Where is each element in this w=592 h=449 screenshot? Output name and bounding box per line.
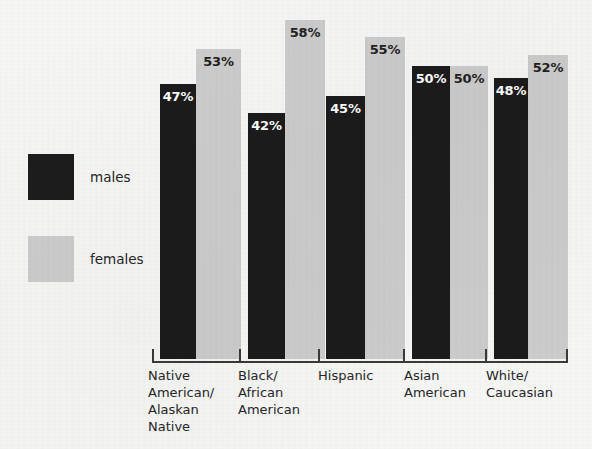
bar-value-label: 50% xyxy=(412,72,450,85)
bar-value-label: 42% xyxy=(248,119,285,132)
x-axis-tick-5 xyxy=(485,349,487,362)
x-axis-tick-6 xyxy=(566,349,568,362)
category-label-2: Black/ African American xyxy=(238,367,300,418)
bar-females-2: 58% xyxy=(285,20,325,359)
bar-males-5: 48% xyxy=(494,78,528,359)
bar-value-label: 53% xyxy=(196,55,241,68)
bar-females-1: 53% xyxy=(196,49,241,359)
plot-area: 47%53%Native American/ Alaskan Native42%… xyxy=(0,0,592,449)
x-axis-tick-3 xyxy=(318,349,320,362)
x-axis-tick-1 xyxy=(152,349,154,362)
bar-males-3: 45% xyxy=(326,96,365,359)
category-label-3: Hispanic xyxy=(318,367,373,384)
x-axis-baseline xyxy=(152,361,568,363)
bar-value-label: 52% xyxy=(528,61,568,74)
bar-females-4: 50% xyxy=(450,66,488,359)
bar-value-label: 50% xyxy=(450,72,488,85)
category-label-1: Native American/ Alaskan Native xyxy=(148,367,214,436)
category-label-5: White/ Caucasian xyxy=(486,367,553,401)
bar-value-label: 48% xyxy=(494,84,528,97)
x-axis-tick-2 xyxy=(239,349,241,362)
bar-females-3: 55% xyxy=(365,37,405,359)
category-label-4: Asian American xyxy=(404,367,466,401)
bar-males-2: 42% xyxy=(248,113,285,359)
bar-value-label: 45% xyxy=(326,102,365,115)
bar-chart: males females 47%53%Native American/ Ala… xyxy=(0,0,592,449)
bar-males-1: 47% xyxy=(160,84,196,359)
bar-value-label: 58% xyxy=(285,26,325,39)
bar-females-5: 52% xyxy=(528,55,568,359)
bar-males-4: 50% xyxy=(412,66,450,359)
bar-value-label: 55% xyxy=(365,43,405,56)
bar-value-label: 47% xyxy=(160,90,196,103)
x-axis-tick-4 xyxy=(403,349,405,362)
